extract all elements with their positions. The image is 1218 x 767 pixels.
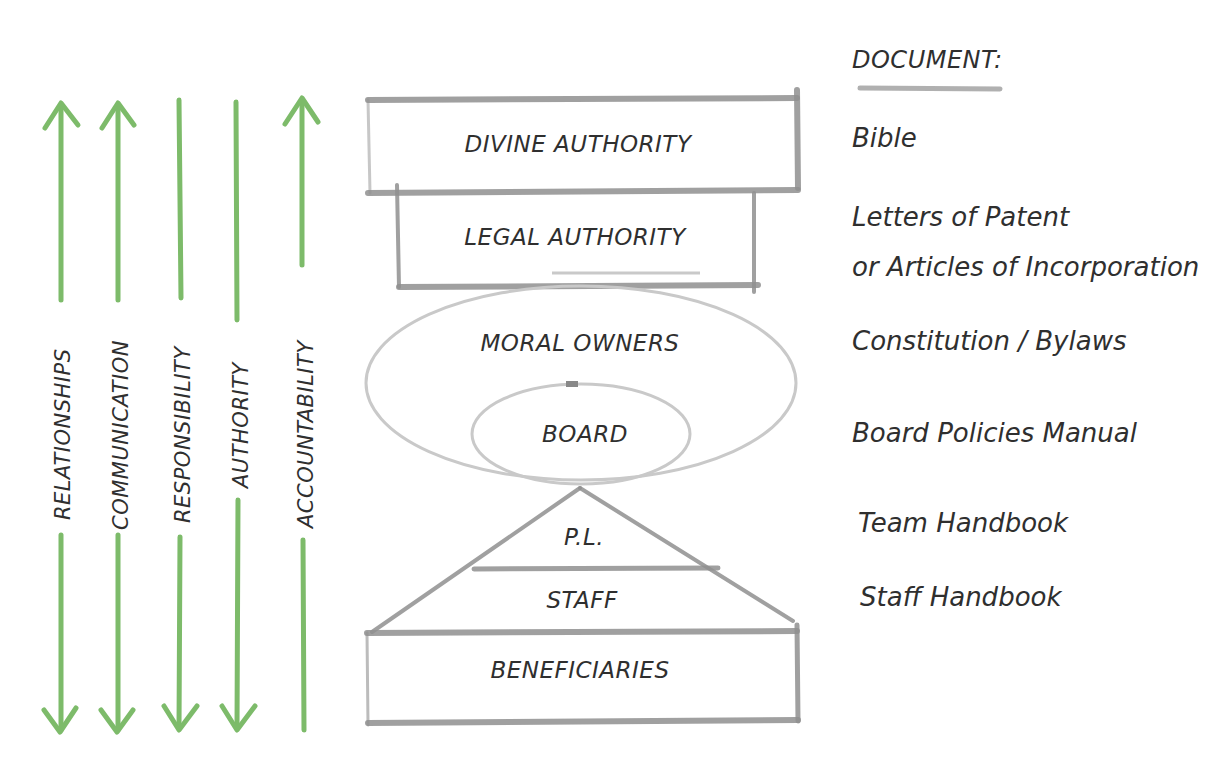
level-label: DIVINE AUTHORITY [465, 131, 693, 157]
documents-header: DOCUMENT: [852, 46, 1003, 74]
principle-relationships: RELATIONSHIPS [44, 103, 78, 732]
arrow-shaft-top [179, 100, 181, 298]
arrow-shaft-bottom [237, 500, 238, 728]
level-beneficiaries: BENEFICIARIES [367, 625, 798, 725]
document-staff-handbook: Staff Handbook [860, 582, 1062, 612]
document-bible: Bible [852, 123, 917, 153]
principle-label: RESPONSIBILITY [171, 345, 195, 523]
principle-label: AUTHORITY [229, 361, 253, 490]
document-constitution-bylaws: Constitution / Bylaws [852, 326, 1126, 356]
arrow-shaft-top [236, 102, 237, 320]
governance-diagram: RELATIONSHIPS COMMUNICATION RESPONSIBILI… [0, 0, 1218, 767]
level-label-pl: P.L. [564, 524, 604, 550]
level-pl-staff-triangle: P.L. STAFF [372, 488, 793, 632]
level-legal-authority: LEGAL AUTHORITY [397, 185, 758, 292]
principle-communication: COMMUNICATION [101, 103, 134, 732]
level-label: BOARD [542, 421, 628, 447]
document-articles-incorporation: or Articles of Incorporation [852, 252, 1199, 282]
level-divine-authority: DIVINE AUTHORITY [368, 90, 798, 193]
level-label-staff: STAFF [546, 587, 618, 613]
level-board: BOARD [472, 381, 690, 484]
principle-label: COMMUNICATION [109, 340, 133, 530]
document-team-handbook: Team Handbook [858, 508, 1069, 538]
pencil-mark [566, 381, 578, 387]
document-letters-patent: Letters of Patent [852, 202, 1070, 232]
documents-column: DOCUMENT: Bible Letters of Patent or Art… [852, 46, 1199, 612]
principle-label: RELATIONSHIPS [51, 349, 75, 520]
header-underline [860, 88, 1000, 89]
level-label: MORAL OWNERS [481, 330, 680, 356]
document-board-policies: Board Policies Manual [852, 418, 1138, 448]
level-label: BENEFICIARIES [490, 657, 669, 683]
arrow-shaft-bottom [303, 540, 304, 730]
arrow-shaft-bottom [179, 537, 180, 728]
principle-authority: AUTHORITY [222, 102, 255, 730]
principle-accountability: ACCOUNTABILITY [285, 98, 318, 730]
principle-responsibility: RESPONSIBILITY [164, 100, 197, 730]
principle-label: ACCOUNTABILITY [294, 339, 318, 530]
level-label: LEGAL AUTHORITY [464, 224, 687, 250]
